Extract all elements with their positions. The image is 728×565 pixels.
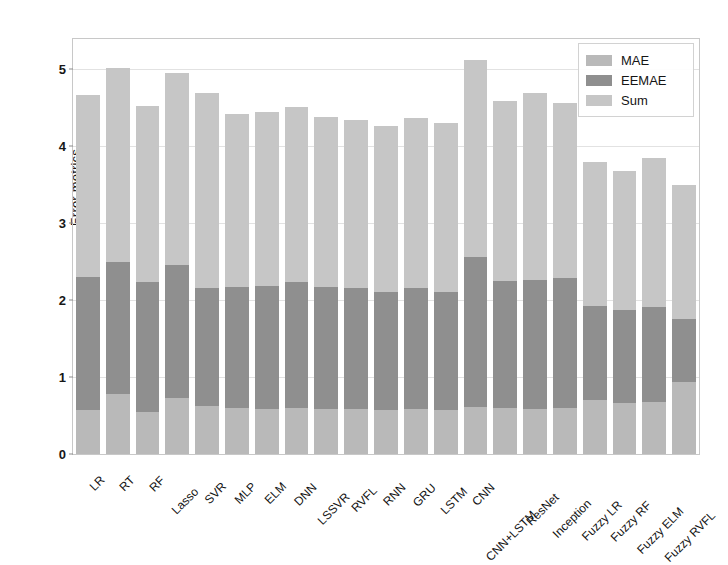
x-tick-label: RF bbox=[157, 462, 178, 483]
y-tick-mark bbox=[69, 377, 73, 378]
x-tick-label-text: DNN bbox=[291, 480, 319, 508]
bar-segment-eemae bbox=[344, 288, 368, 410]
bar bbox=[195, 39, 219, 454]
bar bbox=[374, 39, 398, 454]
bar-segment-sum bbox=[583, 162, 607, 306]
bar-segment-mae bbox=[523, 409, 547, 454]
bar-segment-mae bbox=[225, 408, 249, 454]
bar-segment-eemae bbox=[523, 280, 547, 409]
x-tick-label-text: LSTM bbox=[437, 485, 470, 518]
bar-segment-mae bbox=[136, 412, 160, 454]
x-tick-label-text: RT bbox=[116, 473, 137, 494]
bar-segment-eemae bbox=[583, 306, 607, 400]
bar-segment-eemae bbox=[314, 287, 338, 409]
x-tick-label: GRU bbox=[429, 462, 458, 491]
bar bbox=[285, 39, 309, 454]
bar-segment-mae bbox=[613, 403, 637, 454]
legend-swatch bbox=[586, 75, 612, 86]
bar-segment-sum bbox=[195, 93, 219, 288]
bar-segment-sum bbox=[464, 60, 488, 257]
x-tick-label-text: RF bbox=[146, 473, 167, 494]
bar-segment-sum bbox=[672, 185, 696, 320]
bar-segment-sum bbox=[225, 114, 249, 286]
bar-segment-sum bbox=[523, 93, 547, 280]
bar bbox=[344, 39, 368, 454]
y-tick-label: 4 bbox=[59, 139, 66, 154]
bar-segment-sum bbox=[136, 106, 160, 282]
bar-segment-sum bbox=[613, 171, 637, 310]
bar-segment-mae bbox=[106, 394, 130, 454]
bar-segment-sum bbox=[642, 158, 666, 307]
legend-label: EEMAE bbox=[621, 73, 667, 88]
bar-segment-eemae bbox=[165, 265, 189, 397]
bar bbox=[255, 39, 279, 454]
bar-segment-sum bbox=[165, 73, 189, 265]
x-tick-label-text: LR bbox=[87, 473, 108, 494]
legend-swatch bbox=[586, 55, 612, 66]
bar-segment-eemae bbox=[493, 281, 517, 408]
bar-segment-eemae bbox=[136, 282, 160, 411]
x-tick-label: DNN bbox=[309, 462, 337, 490]
x-tick-label: RT bbox=[127, 462, 148, 483]
y-tick-label: 5 bbox=[59, 62, 66, 77]
legend-swatch bbox=[586, 95, 612, 106]
bar-segment-eemae bbox=[255, 286, 279, 408]
bar-segment-mae bbox=[642, 402, 666, 454]
bar-segment-mae bbox=[434, 410, 458, 454]
y-tick-mark bbox=[69, 223, 73, 224]
bar bbox=[464, 39, 488, 454]
y-tick-mark bbox=[69, 146, 73, 147]
y-tick-label: 3 bbox=[59, 216, 66, 231]
legend-item[interactable]: EEMAE bbox=[586, 70, 686, 90]
bar-segment-eemae bbox=[76, 277, 100, 410]
bar bbox=[523, 39, 547, 454]
legend-label: MAE bbox=[621, 53, 649, 68]
y-tick-mark bbox=[69, 69, 73, 70]
bar-segment-sum bbox=[553, 103, 577, 279]
bar-segment-mae bbox=[195, 406, 219, 454]
bar-segment-eemae bbox=[404, 288, 428, 409]
bar bbox=[76, 39, 100, 454]
x-tick-label: ELM bbox=[279, 462, 306, 489]
y-tick-label: 2 bbox=[59, 293, 66, 308]
bar-segment-mae bbox=[344, 409, 368, 454]
bar-segment-eemae bbox=[464, 257, 488, 407]
bar bbox=[553, 39, 577, 454]
bar-segment-eemae bbox=[672, 319, 696, 382]
legend-item[interactable]: Sum bbox=[586, 90, 686, 110]
x-tick-label: CNN bbox=[488, 462, 516, 490]
bar-segment-sum bbox=[374, 126, 398, 292]
bar-segment-eemae bbox=[553, 278, 577, 407]
y-tick-label: 1 bbox=[59, 370, 66, 385]
x-tick-label-text: LSSVR bbox=[315, 490, 353, 528]
x-tick-label-text: ELM bbox=[262, 479, 289, 506]
bar-segment-mae bbox=[285, 408, 309, 454]
chart-legend: MAEEEMAESum bbox=[578, 43, 694, 117]
bar-segment-sum bbox=[404, 118, 428, 289]
bar-segment-mae bbox=[583, 400, 607, 454]
bar-segment-sum bbox=[493, 101, 517, 280]
bar bbox=[225, 39, 249, 454]
bar-segment-mae bbox=[464, 407, 488, 454]
y-tick-mark bbox=[69, 300, 73, 301]
bar bbox=[106, 39, 130, 454]
bar-segment-mae bbox=[404, 409, 428, 454]
bar-segment-eemae bbox=[434, 292, 458, 410]
bar-segment-sum bbox=[285, 107, 309, 283]
x-tick-label-text: MLP bbox=[232, 479, 259, 506]
bar-segment-eemae bbox=[106, 262, 130, 394]
bar bbox=[136, 39, 160, 454]
bar-segment-mae bbox=[374, 410, 398, 454]
bar-segment-mae bbox=[672, 382, 696, 454]
bar-segment-eemae bbox=[225, 287, 249, 408]
y-tick-label: 0 bbox=[59, 447, 66, 462]
bar-segment-mae bbox=[76, 410, 100, 454]
bar-segment-eemae bbox=[613, 310, 637, 403]
bar-segment-eemae bbox=[285, 282, 309, 408]
bar-segment-mae bbox=[493, 408, 517, 454]
bar-segment-sum bbox=[434, 123, 458, 292]
legend-item[interactable]: MAE bbox=[586, 50, 686, 70]
bar-segment-mae bbox=[165, 398, 189, 454]
bar bbox=[165, 39, 189, 454]
bar bbox=[314, 39, 338, 454]
